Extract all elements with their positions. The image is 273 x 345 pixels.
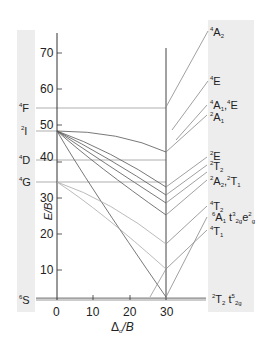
y-axis-title: E/B: [43, 203, 54, 221]
term-4D: 4D: [19, 154, 30, 166]
y-tick-50: 50: [40, 119, 53, 131]
term-4G: 4G: [19, 176, 31, 188]
term-2I: 2I: [21, 125, 27, 137]
label-2A2-2T1: 2A2,2T1: [210, 175, 241, 188]
y-tick-60: 60: [40, 83, 53, 95]
x-tick-30: 30: [160, 306, 173, 318]
label-6A1: 6A1 t32ge2g: [212, 211, 255, 224]
y-tick-40: 40: [40, 151, 53, 163]
label-4T1: 4T1: [210, 225, 223, 238]
label-4A2: 4A2: [210, 26, 224, 39]
x-tick-20: 20: [123, 306, 136, 318]
y-ticks: [57, 53, 62, 270]
x-tick-0: 0: [53, 306, 60, 318]
ground-state-line: [36, 298, 206, 301]
label-2A1: 2A1: [210, 111, 224, 124]
left-label-band: [17, 30, 35, 312]
label-2T2: 2T2: [210, 160, 223, 173]
y-tick-10: 10: [40, 264, 53, 276]
term-4F: 4F: [19, 102, 29, 114]
x-tick-10: 10: [86, 306, 99, 318]
free-ion-levels: [36, 108, 166, 182]
term-6S: 6S: [19, 294, 30, 306]
label-4E: 4E: [210, 75, 221, 87]
quartet-curves: [57, 182, 166, 269]
label-2T2-t2g5: 2T2 t52g: [212, 293, 242, 306]
y-tick-20: 20: [40, 228, 53, 240]
strong-field-lines: [166, 31, 208, 297]
y-tick-70: 70: [40, 47, 53, 59]
doublet-curves: [57, 131, 166, 297]
x-axis-title: Δo/B: [111, 321, 134, 334]
